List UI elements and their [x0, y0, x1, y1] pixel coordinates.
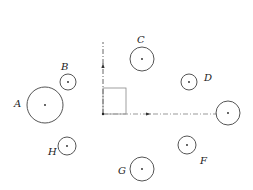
- circles-group: ABCDFGH: [13, 34, 240, 181]
- circle-center-point: [188, 81, 190, 83]
- origin-rectangle: [103, 88, 126, 114]
- arrow-right-icon: [146, 112, 151, 115]
- circle-label: A: [13, 98, 21, 109]
- circle-f: F: [178, 136, 208, 166]
- circle-d: D: [181, 72, 212, 90]
- circle-center-point: [227, 112, 229, 114]
- origin-point: [102, 113, 104, 115]
- circle-label: H: [47, 146, 57, 157]
- circle-label: C: [137, 34, 145, 45]
- circle-center-point: [66, 145, 68, 147]
- circle-label: B: [60, 61, 68, 72]
- circle-b: B: [60, 61, 76, 90]
- circle-e: [216, 101, 240, 125]
- circle-center-point: [44, 104, 46, 106]
- circle-center-point: [141, 168, 143, 170]
- circle-center-point: [67, 81, 69, 83]
- circle-label: F: [199, 155, 208, 166]
- circle-h: H: [47, 137, 76, 157]
- circle-label: G: [118, 165, 126, 176]
- circle-c: C: [130, 34, 154, 71]
- coordinate-axes: [101, 42, 217, 116]
- circle-a: A: [13, 87, 63, 123]
- circle-label: D: [203, 72, 212, 83]
- circle-g: G: [118, 157, 154, 181]
- arrow-up-icon: [101, 63, 104, 68]
- circle-center-point: [186, 144, 188, 146]
- circle-center-point: [141, 58, 143, 60]
- diagram-canvas: ABCDFGH: [0, 0, 253, 190]
